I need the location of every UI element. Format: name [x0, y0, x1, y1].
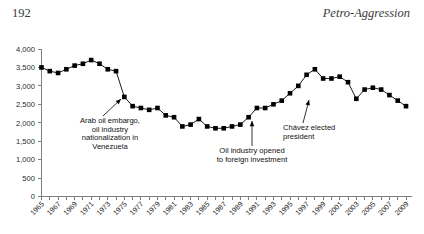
y-tick-label: 0 — [31, 192, 35, 201]
x-tick-label: 2007 — [376, 200, 394, 218]
data-point — [362, 87, 367, 92]
data-point — [180, 124, 185, 129]
data-point — [246, 115, 251, 120]
y-tick-label: 4,000 — [16, 45, 35, 54]
data-point — [221, 126, 226, 131]
y-tick-label: 3,500 — [16, 63, 35, 72]
y-tick-label: 2,500 — [16, 100, 35, 109]
data-point — [387, 93, 392, 98]
data-point — [279, 98, 284, 103]
x-tick-label: 2001 — [326, 200, 344, 218]
x-tick-label: 1975 — [111, 200, 129, 218]
data-point — [72, 63, 77, 68]
y-tick-label: 1,000 — [16, 155, 35, 164]
x-tick-label: 2003 — [343, 200, 361, 218]
x-tick-label: 1965 — [28, 200, 46, 218]
x-tick-label: 2009 — [393, 200, 411, 218]
chart-container: 05001,0001,5002,0002,5003,0003,5004,000 … — [0, 34, 424, 234]
data-point — [238, 122, 243, 127]
data-point — [97, 61, 102, 66]
data-point — [205, 124, 210, 129]
x-tick-label: 1987 — [210, 200, 228, 218]
data-point — [147, 108, 152, 113]
data-point — [296, 84, 301, 89]
x-tick-label: 1991 — [244, 200, 262, 218]
data-point — [39, 65, 44, 70]
x-tick-marks — [42, 197, 407, 201]
y-tick-labels: 05001,0001,5002,0002,5003,0003,5004,000 — [16, 45, 35, 202]
x-tick-label: 1995 — [277, 200, 295, 218]
data-point — [321, 76, 326, 81]
x-tick-label: 1989 — [227, 200, 245, 218]
x-tick-label: 1997 — [293, 200, 311, 218]
data-point — [56, 71, 61, 76]
data-point — [163, 113, 168, 118]
annotation-chavez-elected: Chávez electedpresident — [283, 100, 335, 141]
x-tick-label: 1993 — [260, 200, 278, 218]
data-point — [64, 67, 69, 72]
y-tick-label: 500 — [22, 174, 35, 183]
data-point — [139, 106, 144, 111]
annotation-line: to foreign investment — [217, 155, 288, 164]
data-point — [263, 106, 268, 111]
data-point — [337, 74, 342, 79]
data-point — [155, 106, 160, 111]
running-title: Petro-Aggression — [323, 6, 410, 21]
annotation-line: Venezuela — [92, 142, 128, 151]
data-point — [313, 67, 318, 72]
data-point — [371, 85, 376, 90]
data-point — [404, 104, 409, 109]
x-tick-label: 1981 — [161, 200, 179, 218]
data-point — [197, 117, 202, 122]
data-point — [329, 76, 334, 81]
y-tick-marks — [38, 49, 42, 197]
x-tick-label: 1973 — [95, 200, 113, 218]
x-tick-label: 1969 — [61, 200, 79, 218]
x-tick-labels: 1965196719691971197319751977197919811983… — [28, 200, 410, 218]
data-point — [230, 124, 235, 129]
x-tick-label: 2005 — [360, 200, 378, 218]
data-point — [255, 106, 260, 111]
venezuela-oil-production-chart: 05001,0001,5002,0002,5003,0003,5004,000 … — [0, 34, 424, 234]
data-point — [271, 102, 276, 107]
page-header: 192 Petro-Aggression — [0, 6, 424, 24]
y-axis: 05001,0001,5002,0002,5003,0003,5004,000 — [16, 45, 42, 202]
y-tick-label: 3,000 — [16, 82, 35, 91]
x-tick-label: 1985 — [194, 200, 212, 218]
data-point — [379, 87, 384, 92]
data-point — [395, 98, 400, 103]
x-tick-label: 1967 — [45, 200, 63, 218]
x-tick-label: 1999 — [310, 200, 328, 218]
annotation-arrowhead — [250, 121, 255, 126]
data-point — [354, 96, 359, 101]
x-tick-label: 1983 — [177, 200, 195, 218]
data-point — [47, 69, 52, 74]
x-tick-label: 1979 — [144, 200, 162, 218]
y-tick-label: 2,000 — [16, 119, 35, 128]
data-point — [105, 67, 110, 72]
data-point — [130, 104, 135, 109]
data-point — [172, 115, 177, 120]
data-point — [304, 73, 309, 78]
data-point — [213, 126, 218, 131]
data-point — [114, 69, 119, 74]
page-number: 192 — [12, 6, 31, 21]
annotation-arrowhead — [305, 100, 309, 106]
data-point — [81, 61, 86, 66]
data-point — [288, 91, 293, 96]
x-tick-label: 1971 — [78, 200, 96, 218]
chart-annotations: Arab oil embargo,oil industrynationaliza… — [80, 99, 335, 164]
x-axis: 1965196719691971197319751977197919811983… — [28, 197, 412, 218]
data-point — [188, 122, 193, 127]
y-tick-label: 1,500 — [16, 137, 35, 146]
data-point — [346, 80, 351, 85]
x-tick-label: 1977 — [128, 200, 146, 218]
data-point — [89, 58, 94, 63]
annotation-line: president — [283, 132, 315, 141]
data-point — [122, 95, 127, 100]
